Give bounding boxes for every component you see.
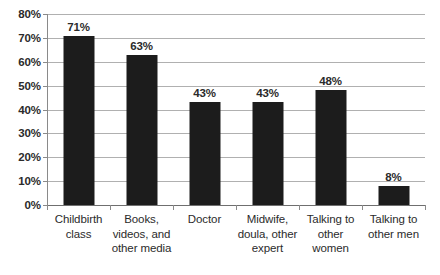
y-tick-mark-50 [43, 86, 48, 87]
x-category-label-line: other media [110, 241, 173, 256]
bar-chart: 0%10%20%30%40%50%60%70%80% 71%63%43%43%4… [0, 0, 440, 275]
bar-slot: 63% [110, 14, 173, 205]
bar-slot: 71% [47, 14, 110, 205]
x-category-label: Childbirthclass [47, 212, 110, 241]
bar[interactable] [252, 102, 283, 205]
bar-slot: 43% [236, 14, 299, 205]
x-category-label-line: Talking to [362, 212, 425, 227]
x-category-label-line: expert [236, 241, 299, 256]
y-tick-label-20: 20% [18, 151, 41, 163]
y-tick-label-60: 60% [18, 56, 41, 68]
x-tick-mark-3 [236, 205, 237, 210]
bar-value-label: 48% [319, 75, 342, 87]
bar-slot: 8% [362, 14, 425, 205]
bar-value-label: 71% [67, 21, 90, 33]
x-category-label: Midwife,doula, otherexpert [236, 212, 299, 256]
x-tick-mark-4 [299, 205, 300, 210]
x-category-label-line: Midwife, [236, 212, 299, 227]
y-tick-mark-70 [43, 38, 48, 39]
x-category-label-line: class [47, 227, 110, 242]
x-category-label: Books,videos, andother media [110, 212, 173, 256]
bar[interactable] [315, 90, 346, 205]
x-category-label-line: Books, [110, 212, 173, 227]
bar-value-label: 8% [385, 171, 401, 183]
y-tick-label-70: 70% [18, 32, 41, 44]
x-axis-category-labels: ChildbirthclassBooks,videos, andother me… [47, 212, 425, 272]
x-tick-mark-5 [362, 205, 363, 210]
x-category-label-line: other men [362, 227, 425, 242]
y-tick-label-80: 80% [18, 8, 41, 20]
bar-value-label: 43% [256, 87, 279, 99]
x-category-label: Talking tootherwomen [299, 212, 362, 256]
bar[interactable] [189, 102, 220, 205]
y-tick-mark-20 [43, 157, 48, 158]
x-category-label-line: Talking to [299, 212, 362, 227]
bar-slot: 43% [173, 14, 236, 205]
x-category-label-line: Doctor [173, 212, 236, 227]
y-tick-mark-60 [43, 62, 48, 63]
x-category-label-line: women [299, 241, 362, 256]
plot-area: 71%63%43%43%48%8% [47, 14, 425, 205]
bar-value-label: 63% [130, 40, 153, 52]
x-tick-mark-1 [110, 205, 111, 210]
x-tick-mark-0 [47, 205, 48, 210]
x-category-label: Talking toother men [362, 212, 425, 241]
bars: 71%63%43%43%48%8% [47, 14, 425, 205]
x-category-label-line: other [299, 227, 362, 242]
y-tick-label-30: 30% [18, 127, 41, 139]
y-tick-label-50: 50% [18, 80, 41, 92]
bar-value-label: 43% [193, 87, 216, 99]
y-tick-mark-30 [43, 133, 48, 134]
bar[interactable] [126, 55, 157, 205]
x-category-label-line: videos, and [110, 227, 173, 242]
y-tick-mark-80 [43, 14, 48, 15]
bar-slot: 48% [299, 14, 362, 205]
y-tick-label-40: 40% [18, 104, 41, 116]
x-category-label-line: Childbirth [47, 212, 110, 227]
x-category-label: Doctor [173, 212, 236, 227]
y-tick-mark-10 [43, 181, 48, 182]
x-tick-mark-6 [425, 205, 426, 210]
y-tick-label-0: 0% [25, 199, 41, 211]
x-category-label-line: doula, other [236, 227, 299, 242]
y-tick-label-10: 10% [18, 175, 41, 187]
y-axis-tick-labels: 0%10%20%30%40%50%60%70%80% [0, 0, 44, 275]
bar[interactable] [63, 36, 94, 206]
bar[interactable] [378, 186, 409, 205]
x-tick-mark-2 [173, 205, 174, 210]
y-tick-mark-40 [43, 110, 48, 111]
